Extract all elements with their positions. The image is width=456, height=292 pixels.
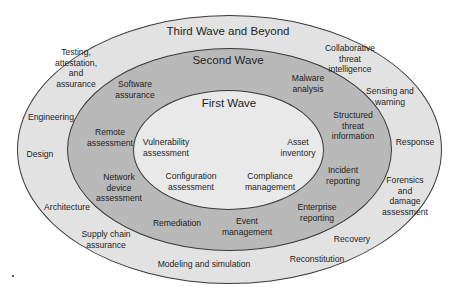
item-collaborative-threat-intelligence: Collaborative threat intelligence	[325, 43, 375, 75]
item-malware-analysis: Malware analysis	[292, 73, 324, 94]
item-asset-inventory: Asset inventory	[281, 137, 316, 158]
item-remediation: Remediation	[153, 218, 201, 229]
item-software-assurance: Software assurance	[115, 79, 155, 100]
item-recovery: Recovery	[334, 234, 370, 245]
item-modeling-and-simulation: Modeling and simulation	[158, 259, 251, 270]
item-structured-threat-information: Structured threat information	[332, 110, 375, 142]
item-event-management: Event management	[222, 216, 272, 237]
item-remote-assessment: Remote assessment	[87, 127, 133, 148]
stray-mark	[12, 275, 14, 277]
item-engineering: Engineering	[28, 112, 74, 123]
item-forensics-damage-assessment: Forensics and damage assessment	[382, 175, 428, 217]
item-supply-chain-assurance: Supply chain assurance	[81, 229, 130, 250]
item-configuration-assessment: Configuration assessment	[165, 171, 216, 192]
item-network-device-assessment: Network device assessment	[96, 172, 142, 204]
item-design: Design	[27, 149, 54, 160]
item-architecture: Architecture	[44, 202, 90, 213]
item-response: Response	[396, 137, 435, 148]
item-sensing-and-warning: Sensing and warning	[366, 86, 414, 107]
second-wave-title: Second Wave	[192, 54, 263, 67]
first-wave-title: First Wave	[202, 97, 257, 110]
item-reconstitution: Reconstitution	[290, 254, 344, 265]
item-enterprise-reporting: Enterprise reporting	[297, 202, 336, 223]
item-vulnerability-assessment: Vulnerability assessment	[143, 137, 190, 158]
item-testing-attestation-assurance: Testing, attestation, and assurance	[55, 47, 97, 89]
item-incident-reporting: Incident reporting	[326, 165, 360, 186]
item-compliance-management: Compliance management	[245, 171, 295, 192]
third-wave-title: Third Wave and Beyond	[167, 25, 290, 38]
